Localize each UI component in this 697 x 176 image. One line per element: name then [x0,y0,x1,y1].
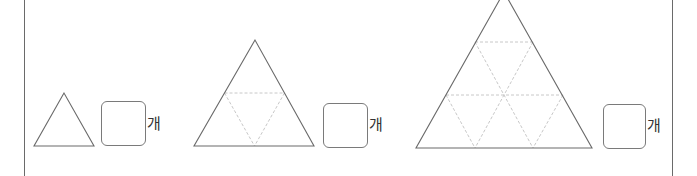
unit-label-2: 개 [369,118,383,133]
unit-label-1: 개 [147,117,161,132]
triangle-figures [0,0,697,176]
triangle-1 [34,93,94,146]
unit-label-3: 개 [647,119,661,134]
answer-input-3[interactable] [603,104,646,149]
dashed-grid [225,93,285,146]
answer-input-1[interactable] [101,101,146,146]
triangle-3 [416,0,592,148]
answer-input-2[interactable] [323,103,368,148]
dashed-grid [446,42,563,148]
triangle-2 [194,40,314,146]
